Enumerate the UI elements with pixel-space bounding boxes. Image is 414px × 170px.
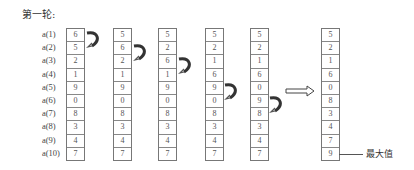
- array-cell: 8: [114, 108, 131, 121]
- array-cell: 9: [67, 82, 84, 95]
- array-cell: 7: [322, 135, 339, 148]
- array-cell: 8: [251, 108, 268, 121]
- array-cell: 4: [159, 135, 176, 148]
- array-column-5: 5 2 1 6 0 9 8 3 4 7: [250, 28, 269, 161]
- array-cell: 8: [67, 108, 84, 121]
- array-cell: 6: [322, 69, 339, 82]
- array-cell: 6: [67, 29, 84, 42]
- array-cell: 8: [159, 108, 176, 121]
- array-cell: 6: [206, 69, 223, 82]
- result-arrow-icon: [285, 85, 315, 97]
- array-cell: 6: [159, 55, 176, 68]
- array-cell: 9: [159, 82, 176, 95]
- row-label: a(7): [42, 107, 60, 120]
- max-value-leader-line: [339, 154, 363, 155]
- array-cell: 4: [67, 135, 84, 148]
- array-cell: 0: [114, 95, 131, 108]
- array-column-1: 6 5 2 1 9 0 8 3 4 7: [66, 28, 85, 161]
- array-cell: 1: [251, 55, 268, 68]
- array-cell: 1: [322, 55, 339, 68]
- row-label: a(4): [42, 68, 60, 81]
- row-label: a(9): [42, 134, 60, 147]
- array-cell: 4: [322, 121, 339, 134]
- array-cell: 0: [159, 95, 176, 108]
- array-cell: 6: [114, 42, 131, 55]
- swap-arrow-icon: [178, 56, 194, 78]
- swap-arrow-icon: [133, 43, 149, 65]
- array-cell: 0: [206, 95, 223, 108]
- swap-arrow-icon: [269, 95, 285, 117]
- array-cell: 5: [67, 42, 84, 55]
- array-cell: 5: [114, 29, 131, 42]
- array-column-result: 5 2 1 6 0 8 3 4 7 9: [321, 28, 340, 161]
- array-cell: 0: [322, 82, 339, 95]
- array-cell: 3: [322, 108, 339, 121]
- array-cell: 5: [251, 29, 268, 42]
- array-cell: 3: [67, 121, 84, 134]
- array-cell: 7: [159, 148, 176, 160]
- array-cell: 9: [322, 148, 339, 160]
- array-cell: 2: [251, 42, 268, 55]
- array-cell: 6: [251, 69, 268, 82]
- array-cell: 3: [159, 121, 176, 134]
- max-value-label: 最大值: [366, 147, 393, 160]
- array-cell: 4: [206, 135, 223, 148]
- array-cell: 1: [206, 55, 223, 68]
- array-column-4: 5 2 1 6 9 0 8 3 4 7: [205, 28, 224, 161]
- array-cell: 7: [251, 148, 268, 160]
- array-cell: 3: [251, 121, 268, 134]
- round-title: 第一轮:: [22, 6, 55, 21]
- row-labels: a(1) a(2) a(3) a(4) a(5) a(6) a(7) a(8) …: [42, 28, 60, 160]
- array-cell: 1: [159, 69, 176, 82]
- array-cell: 9: [251, 95, 268, 108]
- array-cell: 9: [114, 82, 131, 95]
- row-label: a(10): [42, 147, 60, 160]
- array-cell: 2: [114, 55, 131, 68]
- array-cell: 0: [251, 82, 268, 95]
- row-label: a(3): [42, 54, 60, 67]
- array-cell: 8: [322, 95, 339, 108]
- swap-arrow-icon: [86, 30, 102, 52]
- row-label: a(1): [42, 28, 60, 41]
- array-cell: 1: [67, 69, 84, 82]
- array-cell: 3: [206, 121, 223, 134]
- array-cell: 0: [67, 95, 84, 108]
- array-column-2: 5 6 2 1 9 0 8 3 4 7: [113, 28, 132, 161]
- row-label: a(2): [42, 41, 60, 54]
- swap-arrow-icon: [224, 82, 240, 104]
- array-cell: 2: [206, 42, 223, 55]
- array-cell: 4: [114, 135, 131, 148]
- array-cell: 4: [251, 135, 268, 148]
- row-label: a(5): [42, 81, 60, 94]
- array-cell: 5: [206, 29, 223, 42]
- array-cell: 7: [206, 148, 223, 160]
- array-cell: 1: [114, 69, 131, 82]
- array-cell: 2: [322, 42, 339, 55]
- array-cell: 5: [322, 29, 339, 42]
- array-cell: 3: [114, 121, 131, 134]
- array-column-3: 5 2 6 1 9 0 8 3 4 7: [158, 28, 177, 161]
- array-cell: 7: [114, 148, 131, 160]
- array-cell: 5: [159, 29, 176, 42]
- array-cell: 8: [206, 108, 223, 121]
- array-cell: 9: [206, 82, 223, 95]
- array-cell: 7: [67, 148, 84, 160]
- array-cell: 2: [67, 55, 84, 68]
- array-cell: 2: [159, 42, 176, 55]
- row-label: a(6): [42, 94, 60, 107]
- row-label: a(8): [42, 120, 60, 133]
